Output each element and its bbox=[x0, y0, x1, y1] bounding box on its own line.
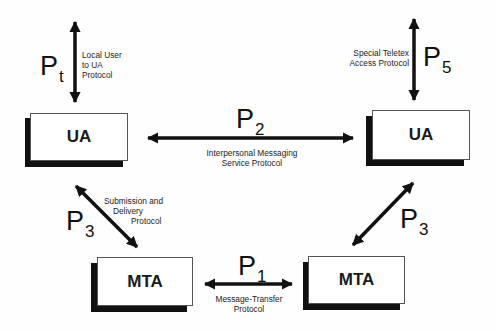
p3-right-subscript: 3 bbox=[419, 220, 428, 239]
ua-left-box: UA bbox=[30, 113, 128, 161]
p1-label: P1 bbox=[238, 253, 266, 280]
p3-left-symbol: P bbox=[66, 206, 84, 236]
p2-symbol: P bbox=[236, 104, 254, 134]
p3-right-label: P3 bbox=[400, 206, 428, 233]
x400-protocol-diagram: UA UA MTA MTA Pt Local User to UA Protoc… bbox=[0, 0, 495, 333]
p3-right-symbol: P bbox=[400, 204, 418, 234]
p1-description: Message-Transfer Protocol bbox=[205, 294, 293, 314]
p1-subscript: 1 bbox=[257, 267, 266, 286]
p5-subscript: 5 bbox=[442, 58, 451, 77]
p5-label: P5 bbox=[423, 44, 451, 71]
p5-symbol: P bbox=[423, 42, 441, 72]
mta-right-box: MTA bbox=[308, 256, 405, 304]
ua-right-box: UA bbox=[372, 110, 470, 160]
p2-label: P2 bbox=[236, 106, 264, 133]
p1-symbol: P bbox=[238, 251, 256, 281]
p3-left-description: Submission and Delivery Protocol bbox=[104, 196, 163, 226]
pt-description: Local User to UA Protocol bbox=[82, 50, 122, 80]
pt-subscript: t bbox=[59, 67, 64, 86]
mta-left-box: MTA bbox=[97, 257, 193, 306]
p2-subscript: 2 bbox=[255, 120, 264, 139]
p3-left-subscript: 3 bbox=[85, 222, 94, 241]
pt-label: Pt bbox=[40, 53, 64, 80]
p3-left-label: P3 bbox=[66, 208, 94, 235]
pt-symbol: P bbox=[40, 51, 58, 81]
p5-description: Special Teletex Access Protocol bbox=[341, 48, 409, 68]
p2-description: Interpersonal Messaging Service Protocol bbox=[196, 148, 308, 168]
